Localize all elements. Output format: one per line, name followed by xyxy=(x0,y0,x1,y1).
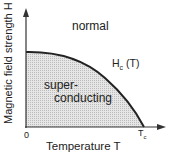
y-axis-arrow-icon xyxy=(23,8,29,17)
curve-label-arg: (T) xyxy=(126,57,139,69)
region-normal-label: normal xyxy=(72,19,109,33)
tc-label: Tc xyxy=(138,128,147,140)
x-axis-label: Temperature T xyxy=(46,140,121,152)
curve-label-sub: c xyxy=(120,64,124,71)
x-axis-arrow-icon xyxy=(157,124,166,130)
origin-label: 0 xyxy=(24,130,29,140)
tc-sub: c xyxy=(144,134,147,140)
region-super-label-1: super- xyxy=(44,78,78,92)
curve-label-main: H xyxy=(112,57,120,69)
region-super-label-2: conducting xyxy=(54,91,112,105)
y-axis-label: Magnetic field strength H xyxy=(2,4,14,124)
curve-label: Hc (T) xyxy=(112,57,139,71)
